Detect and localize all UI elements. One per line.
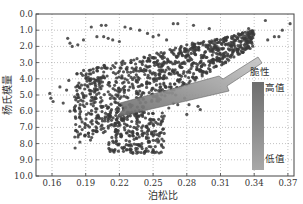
x-tick-label: 0.25 (144, 178, 163, 188)
colorbar-low-label: 低值 (265, 153, 285, 164)
y-tick-label: 7.0 (19, 122, 33, 132)
y-tick-label: 9.0 (19, 155, 33, 165)
x-tick-label: 0.28 (177, 178, 196, 188)
y-tick-label: 6.0 (19, 106, 33, 116)
x-axis-label: 泊松比 (148, 189, 178, 201)
y-tick-label: 8.0 (19, 139, 33, 149)
x-tick-label: 0.19 (76, 178, 95, 188)
colorbar-high-label: 高值 (265, 82, 285, 93)
x-axis-ticks: 0.160.190.220.250.280.310.340.37 (43, 173, 298, 188)
scatter-chart: 0.160.190.220.250.280.310.340.37 0.01.02… (0, 0, 303, 204)
x-tick-label: 0.16 (43, 178, 62, 188)
x-tick-label: 0.34 (245, 178, 264, 188)
colorbar-gradient (252, 82, 264, 170)
brittleness-colorbar: 脆性 高值 低值 (250, 66, 285, 170)
colorbar-title: 脆性 (250, 66, 270, 77)
y-tick-label: 2.0 (19, 41, 33, 51)
x-tick-label: 0.22 (110, 178, 129, 188)
x-tick-label: 0.37 (278, 178, 297, 188)
y-tick-label: 0.0 (19, 9, 33, 19)
y-axis-ticks: 0.01.02.03.04.05.06.07.08.09.010.0 (14, 9, 39, 181)
y-axis-label: 杨氏模量 (1, 75, 13, 115)
y-tick-label: 4.0 (19, 74, 33, 84)
y-tick-label: 3.0 (19, 58, 33, 68)
x-tick-label: 0.31 (211, 178, 230, 188)
y-tick-label: 10.0 (14, 171, 33, 181)
y-tick-label: 5.0 (19, 90, 33, 100)
y-tick-label: 1.0 (19, 25, 33, 35)
